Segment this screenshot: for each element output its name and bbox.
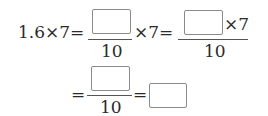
equals-sign: = xyxy=(133,86,147,103)
fraction-bar xyxy=(87,95,132,96)
answer-box-frac2-numerator[interactable] xyxy=(184,10,223,35)
final-answer-box[interactable] xyxy=(149,83,187,108)
equals-sign: = xyxy=(71,86,85,103)
frac3-denominator: 10 xyxy=(100,99,122,116)
frac1-denominator: 10 xyxy=(101,43,123,60)
multiply-equals: ×7= xyxy=(134,24,173,41)
frac2-denominator: 10 xyxy=(204,43,226,60)
frac2-numerator-suffix: ×7 xyxy=(224,16,249,33)
answer-box-frac1-numerator[interactable] xyxy=(92,9,131,34)
fraction-bar xyxy=(88,39,132,40)
lhs-expression: 1.6×7= xyxy=(18,24,84,41)
fraction-bar xyxy=(178,39,248,40)
answer-box-frac3-numerator[interactable] xyxy=(91,66,130,91)
